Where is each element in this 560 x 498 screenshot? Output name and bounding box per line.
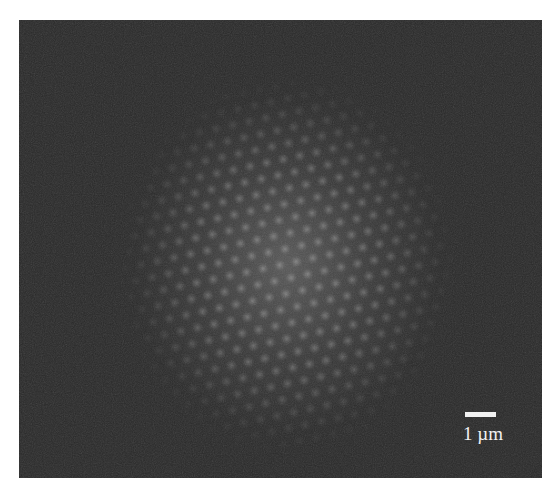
- noise-texture: [19, 20, 542, 478]
- scale-bar: [465, 412, 496, 417]
- micrograph-image: 1 µm: [19, 20, 542, 478]
- scale-bar-label: 1 µm: [460, 423, 506, 445]
